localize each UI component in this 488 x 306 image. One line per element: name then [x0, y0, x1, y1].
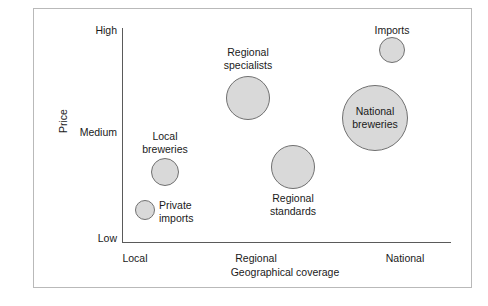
- bubble-private-imports[interactable]: [135, 200, 155, 220]
- bubble-label-regional-specialists: Regional specialists: [205, 46, 291, 71]
- bubble-label-national-breweries: National breweries: [339, 105, 411, 130]
- bubble-label-private-imports: Private imports: [159, 199, 229, 224]
- bubble-local-breweries[interactable]: [151, 158, 179, 186]
- figure-container: High Medium Low Local Regional National …: [0, 0, 488, 306]
- bubble-label-imports: Imports: [356, 24, 428, 37]
- bubble-regional-standards[interactable]: [271, 145, 315, 189]
- y-tick-label-medium: Medium: [62, 126, 117, 138]
- plot-area: High Medium Low Local Regional National …: [0, 0, 488, 306]
- x-axis-title: Geographical coverage: [200, 266, 370, 278]
- x-tick-label-national: National: [377, 252, 433, 264]
- figure-caption: [33, 298, 333, 306]
- y-tick-label-high: High: [62, 24, 117, 36]
- x-tick-label-regional: Regional: [228, 252, 284, 264]
- x-axis-line: [122, 242, 451, 243]
- bubble-label-regional-standards: Regional standards: [250, 192, 336, 217]
- x-tick-label-local: Local: [110, 252, 160, 264]
- y-axis-line: [122, 28, 123, 243]
- bubble-label-local-breweries: Local breweries: [128, 130, 202, 155]
- y-axis-title: Price: [57, 91, 69, 151]
- bubble-regional-specialists[interactable]: [226, 76, 270, 120]
- bubble-imports[interactable]: [379, 37, 405, 63]
- y-tick-label-low: Low: [62, 232, 117, 244]
